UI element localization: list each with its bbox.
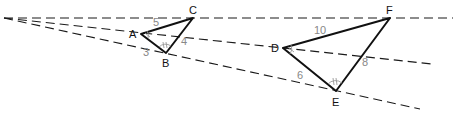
- vertex-label-d: D: [271, 42, 279, 54]
- side-label-bc: 4: [181, 35, 187, 47]
- vertex-label-a: A: [129, 28, 137, 40]
- side-label-ab: 3: [143, 46, 149, 58]
- side-label-de: 6: [297, 69, 303, 81]
- triangle-abc: A B C 5 4 3: [129, 4, 197, 69]
- side-label-ef: 8: [362, 56, 368, 68]
- similar-triangles-diagram: A B C 5 4 3 D E F 10 8 6: [0, 0, 453, 114]
- ray-through-b-e: [4, 18, 420, 109]
- angle-tick-b-2: [166, 42, 167, 48]
- angle-tick-b-1: [163, 42, 164, 48]
- vertex-label-f: F: [386, 4, 393, 16]
- side-label-df: 10: [314, 24, 326, 36]
- side-label-ac: 5: [153, 16, 159, 28]
- angle-tick-e-2: [336, 78, 337, 85]
- dilation-rays: [4, 18, 453, 109]
- vertex-label-b: B: [162, 57, 169, 69]
- vertex-label-c: C: [189, 4, 197, 16]
- angle-mark-b: [159, 44, 171, 47]
- triangle-def: D E F 10 8 6: [271, 4, 393, 108]
- angle-mark-e: [328, 81, 342, 84]
- angle-tick-e-1: [333, 78, 334, 85]
- vertex-label-e: E: [332, 96, 339, 108]
